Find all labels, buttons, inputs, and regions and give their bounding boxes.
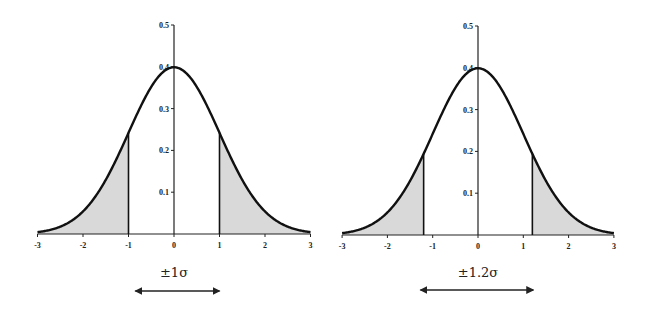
x-tick-label: -2 xyxy=(384,242,391,251)
y-tick-label: 0.1 xyxy=(159,188,169,197)
x-tick-label: -1 xyxy=(429,242,436,251)
x-tick-label: -3 xyxy=(34,241,41,250)
x-tick-label: 3 xyxy=(309,241,313,250)
chart-panel-one-sigma: -3-2-101230.10.20.30.40.5±1σ xyxy=(34,21,312,291)
y-tick-label: 0.5 xyxy=(159,21,169,30)
x-tick-label: 0 xyxy=(172,241,176,250)
y-tick-label: 0.3 xyxy=(463,106,473,115)
x-tick-label: -1 xyxy=(125,241,132,250)
y-tick-label: 0.5 xyxy=(463,22,473,31)
y-tick-label: 0.2 xyxy=(159,146,169,155)
y-tick-label: 0.2 xyxy=(463,147,473,156)
x-tick-label: 2 xyxy=(263,241,267,250)
right-tail-shaded-area xyxy=(220,133,311,234)
x-tick-label: 2 xyxy=(567,242,571,251)
y-tick-label: 0.1 xyxy=(463,189,473,198)
left-tail-shaded-area xyxy=(342,154,424,235)
x-tick-label: 0 xyxy=(476,242,480,251)
sigma-range-label: ±1σ xyxy=(160,265,188,280)
left-tail-shaded-area xyxy=(38,133,129,234)
x-tick-label: -3 xyxy=(339,242,346,251)
normal-distribution-figure: -3-2-101230.10.20.30.40.5±1σ -3-2-101230… xyxy=(0,0,645,313)
chart-panel-one-point-two-sigma: -3-2-101230.10.20.30.40.5±1.2σ xyxy=(339,22,616,290)
x-tick-label: 3 xyxy=(612,242,616,251)
x-tick-label: 1 xyxy=(218,241,222,250)
x-tick-label: -2 xyxy=(80,241,87,250)
sigma-range-label: ±1.2σ xyxy=(458,265,499,280)
x-tick-label: 1 xyxy=(521,242,525,251)
y-tick-label: 0.3 xyxy=(159,105,169,114)
right-tail-shaded-area xyxy=(532,154,614,235)
